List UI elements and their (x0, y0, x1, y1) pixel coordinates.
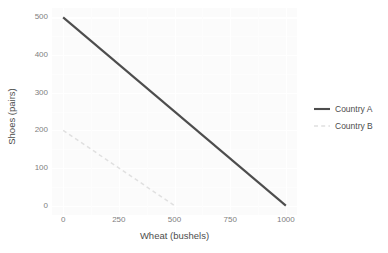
x-tick-label: 750 (223, 216, 236, 224)
y-tick-label: 400 (4, 51, 48, 59)
chart-legend: Country ACountry B (313, 100, 388, 134)
plot-panel (52, 8, 297, 215)
series-line-country-b (63, 130, 174, 205)
y-tick-label: 100 (4, 164, 48, 172)
series-line-country-a (63, 17, 286, 205)
x-tick-label: 1000 (277, 216, 295, 224)
legend-line-key-icon (313, 119, 331, 133)
y-tick-label: 500 (4, 13, 48, 21)
y-tick-label: 0 (4, 202, 48, 210)
chart-container: Shoes (pairs) 0100200300400500 025050075… (0, 0, 388, 253)
legend-item-label: Country A (335, 104, 372, 114)
x-axis-title: Wheat (bushels) (52, 230, 297, 241)
legend-item-label: Country B (335, 121, 373, 131)
legend-line-key-icon (313, 102, 331, 116)
y-tick-label: 300 (4, 89, 48, 97)
legend-item-country-b[interactable]: Country B (313, 117, 388, 134)
x-tick-label: 0 (61, 216, 65, 224)
y-tick-label: 200 (4, 126, 48, 134)
x-tick-label: 500 (168, 216, 181, 224)
x-axis-ticks: 02505007501000 (0, 216, 388, 230)
legend-item-country-a[interactable]: Country A (313, 100, 388, 117)
x-tick-label: 250 (112, 216, 125, 224)
series-layer (52, 8, 297, 215)
